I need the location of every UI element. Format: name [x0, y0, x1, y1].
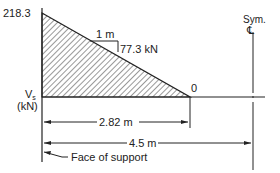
zero-label: 0: [191, 82, 197, 94]
max-value-label: 218.3: [3, 7, 31, 19]
centerline-symbol: ℄: [246, 24, 254, 36]
dimension-label-4.5: 4.5 m: [129, 137, 157, 149]
shear-area: [42, 13, 190, 97]
support-note: Face of support: [71, 151, 147, 163]
axis-label-unit: (kN): [17, 100, 38, 112]
slope-run-label: 1 m: [96, 28, 114, 40]
slope-rise-label: 77.3 kN: [120, 43, 158, 55]
shear-diagram: 218.3 1 m 77.3 kN 0 Sym. ℄ Vs (kN) 2.82 …: [0, 0, 280, 173]
support-leader: [44, 151, 68, 157]
dimension-label-2.82: 2.82 m: [99, 116, 133, 128]
